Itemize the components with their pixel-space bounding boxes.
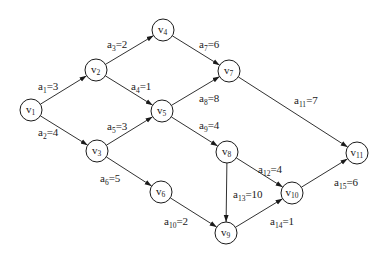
node-v11: v11 bbox=[346, 142, 368, 164]
edge-label-a10: a10=2 bbox=[164, 215, 188, 230]
edge-label-a12: a12=4 bbox=[258, 163, 283, 178]
node-v6: v6 bbox=[150, 181, 172, 203]
edge-label-a8: a8=8 bbox=[199, 92, 220, 107]
node-v9: v9 bbox=[215, 222, 237, 244]
edge-label-a2: a2=4 bbox=[38, 126, 59, 141]
node-v1: v1 bbox=[20, 99, 42, 121]
node-v8: v8 bbox=[216, 141, 238, 163]
edge-label-a14: a14=1 bbox=[270, 215, 294, 230]
edge-label-a9: a9=4 bbox=[199, 119, 220, 134]
edge-label-a7: a7=6 bbox=[199, 38, 220, 53]
node-v10: v10 bbox=[281, 182, 303, 204]
edge-a11 bbox=[238, 77, 347, 147]
edge-label-a15: a15=6 bbox=[334, 176, 359, 191]
node-v4: v4 bbox=[152, 19, 174, 41]
edge-label-a4: a4=1 bbox=[131, 80, 151, 95]
node-v2: v2 bbox=[85, 59, 107, 81]
graph-canvas: a1=3a2=4a3=2a4=1a5=3a6=5a7=6a8=8a9=4a10=… bbox=[0, 0, 387, 258]
aoe-network-diagram: a1=3a2=4a3=2a4=1a5=3a6=5a7=6a8=8a9=4a10=… bbox=[0, 0, 387, 258]
edge-label-a3: a3=2 bbox=[107, 38, 127, 53]
edge-label-a13: a13=10 bbox=[233, 188, 263, 203]
edge-label-a1: a1=3 bbox=[38, 80, 59, 95]
node-v3: v3 bbox=[86, 140, 108, 162]
edge-a13 bbox=[226, 163, 227, 222]
edge-label-a6: a6=5 bbox=[100, 172, 121, 187]
node-v5: v5 bbox=[151, 100, 173, 122]
node-v7: v7 bbox=[218, 60, 240, 82]
edge-label-a5: a5=3 bbox=[107, 120, 128, 135]
edge-label-a11: a11=7 bbox=[294, 94, 318, 109]
